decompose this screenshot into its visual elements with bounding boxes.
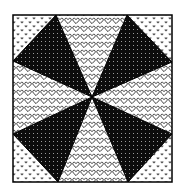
quilt-block-figure	[0, 0, 183, 196]
